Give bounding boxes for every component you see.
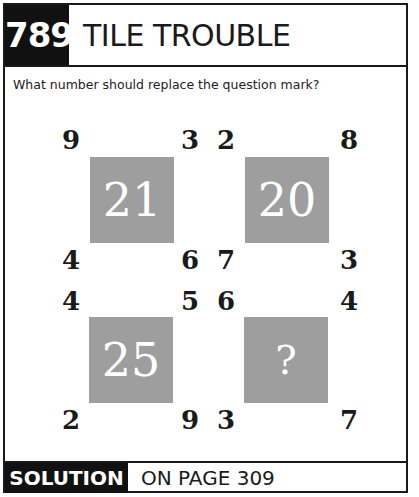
tile-3-bottom-left: 2 (62, 407, 80, 433)
tile-1-bottom-right: 6 (181, 247, 199, 273)
tile-2-bottom-left: 7 (217, 247, 235, 273)
tile-3-bottom-right: 9 (181, 407, 199, 433)
solution-page-reference: ON PAGE 309 (141, 463, 275, 494)
solution-label: SOLUTION (5, 463, 128, 493)
tile-4-bottom-left: 3 (217, 407, 235, 433)
tile-2-bottom-right: 3 (340, 247, 358, 273)
tile-1-center: 21 (90, 157, 174, 243)
tile-2-top-left: 2 (217, 127, 235, 153)
tile-4-bottom-right: 7 (340, 407, 358, 433)
tile-1-bottom-left: 4 (62, 247, 80, 273)
tile-1-top-left: 9 (62, 127, 80, 153)
question-text: What number should replace the question … (13, 77, 319, 92)
puzzle-title: TILE TROUBLE (83, 5, 290, 65)
tile-3-center: 25 (89, 317, 173, 403)
tile-3-top-left: 4 (62, 288, 80, 314)
solution-footer: SOLUTION ON PAGE 309 (5, 461, 406, 493)
tile-4-top-left: 6 (217, 288, 235, 314)
puzzle-header: 789 TILE TROUBLE (5, 5, 406, 67)
tile-2-top-right: 8 (340, 127, 358, 153)
tile-4-question-mark: ? (244, 317, 328, 403)
tile-2-center: 20 (245, 157, 329, 243)
puzzle-frame: 789 TILE TROUBLE What number should repl… (3, 3, 408, 493)
tile-3-top-right: 5 (181, 288, 199, 314)
tile-4-top-right: 4 (340, 288, 358, 314)
puzzle-number: 789 (5, 5, 69, 65)
tile-1-top-right: 3 (181, 127, 199, 153)
